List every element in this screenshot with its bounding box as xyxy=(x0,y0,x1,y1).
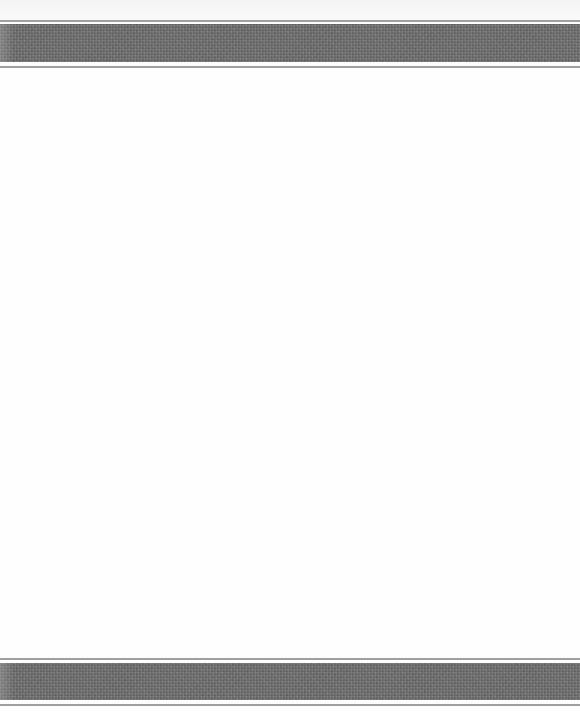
plain-fabric-field xyxy=(0,70,580,656)
top-stripe-upper-line xyxy=(0,20,580,22)
top-stripe-band xyxy=(0,24,580,62)
top-edge-fade xyxy=(0,0,580,20)
textile-image xyxy=(0,0,580,711)
bottom-stripe-band xyxy=(0,663,580,700)
bottom-stripe-upper-line xyxy=(0,658,580,660)
top-stripe-lower-line xyxy=(0,66,580,68)
top-stripe-edge-highlight xyxy=(0,24,14,62)
bottom-stripe-edge-highlight xyxy=(0,663,14,700)
bottom-stripe-lower-line xyxy=(0,704,580,706)
